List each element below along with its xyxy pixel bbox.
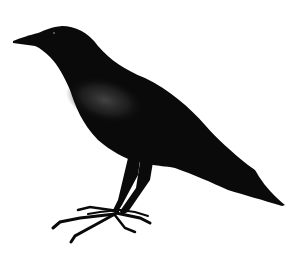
crow-illustration (0, 0, 306, 272)
image-canvas: Crow silhouette (0, 0, 306, 272)
crow-eye (53, 32, 55, 34)
crow-legs (112, 158, 153, 215)
crow-feet (53, 207, 150, 242)
